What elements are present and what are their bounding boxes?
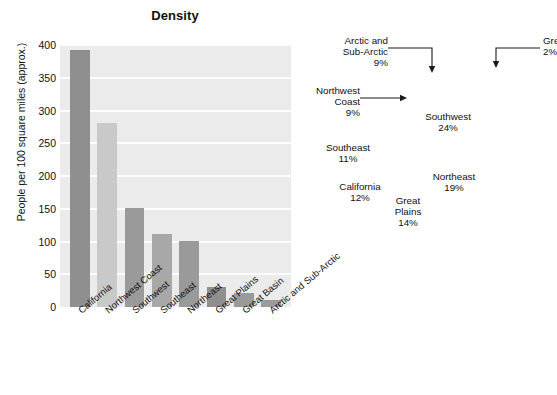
- pie-slice-label-northeast: Northeast19%: [433, 172, 475, 194]
- bar-northwest-coast: [97, 123, 117, 307]
- density-bar-chart: Density 400350300250200150100500 People …: [0, 0, 300, 395]
- y-axis-tick-300: 300: [38, 105, 56, 117]
- bar-slot: [176, 45, 203, 307]
- pie-slice-label-southwest: Southwest24%: [425, 112, 471, 134]
- bar-slot: [203, 45, 230, 307]
- bar-slot: [93, 45, 120, 307]
- pie-slice-label-great-plains: GreatPlains14%: [395, 196, 422, 229]
- bar-california: [70, 50, 90, 307]
- y-axis-tick-150: 150: [38, 203, 56, 215]
- bar-slot: [121, 45, 148, 307]
- pie-slice-label-southeast: Southeast11%: [326, 143, 370, 165]
- y-axis-tick-0: 0: [50, 301, 56, 313]
- bar-slot: [66, 45, 93, 307]
- label-line: 9%: [302, 108, 360, 119]
- y-axis-tick-50: 50: [44, 268, 56, 280]
- bar-chart-x-axis-labels: CaliforniaNorthwest CoastSouthwestSouthe…: [60, 307, 291, 395]
- pie-slice-label-arctic-and-sub-arctic: Arctic andSub-Arctic9%: [318, 36, 388, 69]
- label-line: 9%: [318, 58, 388, 69]
- bar-chart-y-axis-label: People per 100 square miles (approx.): [15, 27, 27, 237]
- bar-chart-bars: [60, 45, 291, 307]
- pie-slice-label-california: California12%: [339, 182, 380, 204]
- label-line: 24%: [425, 123, 471, 134]
- figure-canvas: Density 400350300250200150100500 People …: [0, 0, 557, 395]
- y-axis-tick-350: 350: [38, 72, 56, 84]
- label-line: 12%: [339, 193, 380, 204]
- label-line: 2%: [543, 47, 557, 58]
- bar-slot: [230, 45, 257, 307]
- y-axis-tick-100: 100: [38, 236, 56, 248]
- pie-slice-label-northwest-coast: NorthwestCoast9%: [302, 86, 360, 119]
- y-axis-tick-400: 400: [38, 39, 56, 51]
- bar-chart-plot-area: [60, 45, 291, 307]
- label-line: 14%: [395, 218, 422, 229]
- label-line: 11%: [326, 154, 370, 165]
- pie-slice-label-great-basin: Great Basin2%: [543, 36, 557, 58]
- y-axis-tick-200: 200: [38, 170, 56, 182]
- location-pie-chart: Location Southwest24%Northeast19%GreatPl…: [300, 0, 557, 395]
- y-axis-tick-250: 250: [38, 137, 56, 149]
- label-line: 19%: [433, 183, 475, 194]
- bar-slot: [258, 45, 285, 307]
- bar-chart-title: Density: [60, 8, 290, 23]
